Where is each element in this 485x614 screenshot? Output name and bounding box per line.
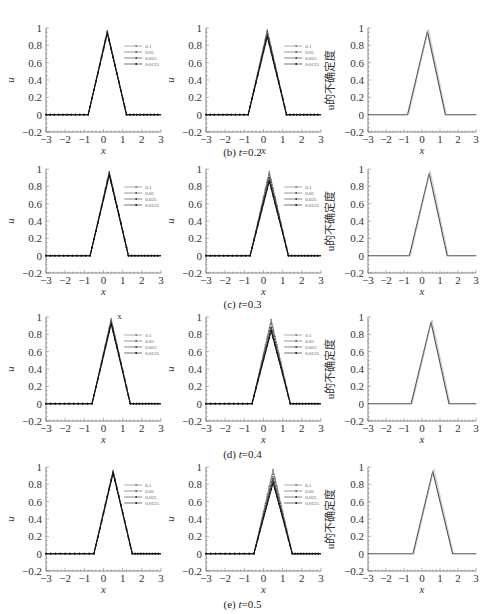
- x-tick-label: 3: [473, 572, 479, 584]
- y-axis-label: u: [164, 366, 176, 372]
- legend-entry: 0.05: [305, 339, 314, 344]
- legend-entry: 0.0125: [145, 62, 159, 67]
- y-tick-label: 0.4: [28, 215, 42, 227]
- y-tick-label: 0.8: [350, 478, 364, 490]
- y-tick-label: 0: [197, 398, 203, 410]
- y-tick-label: 0.8: [350, 328, 364, 340]
- legend-entry: 0.1: [305, 185, 312, 190]
- y-axis-label: u的不确定度: [323, 339, 336, 400]
- y-tick-label: 0.6: [188, 198, 202, 210]
- chart-panel-b-right: −3−2−10123−0.200.20.40.60.81xu的不确定度: [322, 0, 482, 150]
- legend-entry: 0.0125: [305, 351, 319, 356]
- y-tick-label: −0.2: [22, 565, 42, 577]
- x-tick-label: −1: [238, 572, 250, 584]
- y-tick-label: 1: [37, 22, 43, 34]
- legend-entry: 0.05: [145, 489, 154, 494]
- x-tick-label: 2: [139, 422, 145, 434]
- x-axis-label: x: [100, 285, 106, 297]
- caption-value: =0.3: [242, 298, 262, 310]
- y-tick-label: 0.2: [188, 232, 202, 244]
- y-tick-label: −0.2: [182, 565, 202, 577]
- x-tick-label: −1: [398, 572, 410, 584]
- x-tick-label: 2: [299, 422, 305, 434]
- x-tick-label: 1: [120, 133, 126, 145]
- y-tick-label: 0.6: [188, 496, 202, 508]
- x-tick-label: −2: [380, 274, 392, 286]
- y-tick-label: 0.4: [188, 215, 202, 227]
- y-tick-label: 1: [197, 311, 203, 323]
- chart-panel-b-left: −3−2−10123−0.200.20.40.60.81xu0.10.050.0…: [0, 0, 160, 150]
- y-tick-label: 1: [359, 163, 365, 175]
- series-line-0.05: [206, 174, 321, 256]
- legend-entry: 0.1: [305, 483, 312, 488]
- x-tick-label: −1: [78, 572, 90, 584]
- legend-entry: 0.1: [305, 44, 312, 49]
- y-axis-label: u: [164, 516, 176, 522]
- x-tick-label: 2: [299, 572, 305, 584]
- series-line-0.0125: [46, 324, 161, 404]
- x-tick-label: 1: [280, 572, 286, 584]
- series-line-0.025: [206, 178, 321, 256]
- legend-entry: 0.0125: [145, 351, 159, 356]
- legend-entry: 0.1: [305, 333, 312, 338]
- caption-label: (c): [224, 298, 236, 310]
- x-tick-label: 2: [139, 572, 145, 584]
- series-line-0.025: [46, 173, 161, 255]
- y-tick-label: 0.8: [28, 39, 42, 51]
- y-tick-label: 0.6: [28, 198, 42, 210]
- y-tick-label: 0: [359, 109, 365, 121]
- y-tick-label: 1: [359, 461, 365, 473]
- chart-panel-c-middle: −3−2−10123−0.200.20.40.60.81xu0.10.050.0…: [160, 155, 320, 305]
- series-line-0.05: [206, 32, 321, 115]
- y-tick-label: 0.6: [188, 346, 202, 358]
- x-axis-label: x: [260, 433, 266, 445]
- y-tick-label: −0.2: [344, 415, 364, 427]
- legend-entry: 0.1: [145, 483, 152, 488]
- x-tick-label: −1: [78, 133, 90, 145]
- legend: 0.10.050.0250.0125: [124, 185, 159, 208]
- x-tick-label: 2: [455, 133, 461, 145]
- legend-entry: 0.0125: [145, 203, 159, 208]
- legend-entry: 0.1: [145, 44, 152, 49]
- y-tick-label: 0.2: [28, 530, 42, 542]
- y-tick-label: 1: [197, 461, 203, 473]
- caption-value: =0.5: [242, 598, 262, 610]
- y-axis-label: u的不确定度: [323, 489, 336, 550]
- y-tick-label: −0.2: [22, 267, 42, 279]
- y-tick-label: 0.8: [188, 478, 202, 490]
- x-tick-label: −1: [398, 422, 410, 434]
- x-tick-label: 2: [139, 133, 145, 145]
- y-tick-label: 0.2: [188, 380, 202, 392]
- x-tick-label: 1: [280, 422, 286, 434]
- legend-entry: 0.05: [305, 191, 314, 196]
- y-axis-label: u: [4, 77, 16, 83]
- x-tick-label: −1: [78, 274, 90, 286]
- legend-entry: 0.0125: [305, 62, 319, 67]
- series-line-0.05: [46, 32, 161, 115]
- legend-entry: 0.0125: [305, 501, 319, 506]
- y-tick-label: 0.4: [350, 513, 364, 525]
- y-tick-label: 0: [37, 548, 43, 560]
- x-tick-label: −2: [219, 422, 231, 434]
- x-tick-label: 1: [437, 572, 443, 584]
- caption-d: (d) t=0.4: [0, 448, 485, 460]
- y-tick-label: 1: [37, 461, 43, 473]
- x-tick-label: 2: [299, 274, 305, 286]
- series-line-0.1: [206, 172, 321, 256]
- caption-c: (c) t=0.3: [0, 298, 485, 310]
- legend-entry: 0.05: [305, 489, 314, 494]
- y-tick-label: 1: [37, 311, 43, 323]
- legend-entry: 0.025: [305, 495, 317, 500]
- x-tick-label: 1: [280, 133, 286, 145]
- y-tick-label: 0.4: [188, 513, 202, 525]
- y-tick-label: 0.8: [28, 478, 42, 490]
- chart-panel-e-left: −3−2−10123−0.200.20.40.60.81xu0.10.050.0…: [0, 455, 160, 605]
- y-tick-label: 1: [359, 311, 365, 323]
- y-tick-label: 0.6: [188, 57, 202, 69]
- y-axis-label: u: [4, 218, 16, 224]
- x-tick-label: −1: [238, 422, 250, 434]
- legend: 0.10.050.0250.0125: [124, 483, 159, 506]
- legend-entry: 0.05: [145, 50, 154, 55]
- y-tick-label: 0.2: [28, 91, 42, 103]
- y-tick-label: 0.6: [350, 346, 364, 358]
